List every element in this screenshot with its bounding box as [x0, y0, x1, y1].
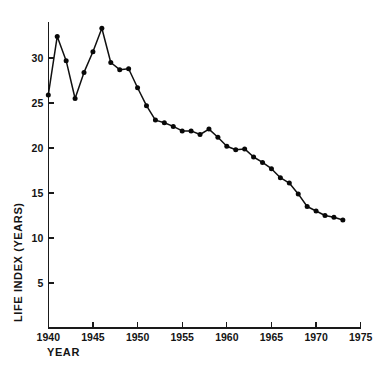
x-tick-label: 1955 [171, 331, 195, 343]
data-point [55, 34, 60, 39]
y-tick-label: 30 [32, 52, 44, 64]
y-tick-label: 25 [32, 97, 44, 109]
data-point [206, 127, 211, 132]
data-point [198, 132, 203, 137]
data-point [126, 66, 131, 71]
x-tick-label: 1970 [304, 331, 328, 343]
y-tick-label: 20 [32, 142, 44, 154]
data-point [117, 67, 122, 72]
data-point [180, 128, 185, 133]
data-point [269, 166, 274, 171]
data-point [331, 215, 336, 220]
data-point [242, 146, 247, 151]
data-point [278, 175, 283, 180]
data-point [314, 209, 319, 214]
y-tick-label: 10 [32, 232, 44, 244]
x-tick-label: 1975 [349, 331, 373, 343]
data-point [340, 218, 345, 223]
data-point [108, 60, 113, 65]
x-tick-label: 1960 [215, 331, 239, 343]
data-point [305, 204, 310, 209]
y-axis-ticks: 51015202530 [32, 52, 55, 289]
x-axis-title: YEAR [47, 346, 80, 358]
data-point [189, 128, 194, 133]
data-point [296, 191, 301, 196]
y-axis-title: LIFE INDEX (YEARS) [12, 202, 24, 322]
data-point [251, 155, 256, 160]
data-point [144, 103, 149, 108]
data-point [162, 120, 167, 125]
x-tick-label: 1965 [260, 331, 284, 343]
data-point [224, 144, 229, 149]
data-series [46, 26, 346, 223]
x-tick-label: 1950 [126, 331, 150, 343]
x-tick-label: 1945 [81, 331, 105, 343]
y-tick-label: 5 [37, 277, 43, 289]
data-point [153, 118, 158, 123]
data-point [46, 92, 51, 97]
data-point [73, 96, 78, 101]
line-chart: 51015202530 1940194519501955196019651970… [0, 0, 389, 374]
data-point [99, 26, 104, 31]
x-tick-label: 1940 [37, 331, 61, 343]
data-point [323, 213, 328, 218]
data-point [215, 135, 220, 140]
data-point [260, 160, 265, 165]
chart-figure: 51015202530 1940194519501955196019651970… [0, 0, 389, 374]
data-point [135, 85, 140, 90]
data-point [233, 147, 238, 152]
y-tick-label: 15 [32, 187, 44, 199]
data-point [287, 181, 292, 186]
series-line-life-index [48, 28, 343, 220]
data-point [171, 124, 176, 129]
data-point [64, 58, 69, 63]
data-point [82, 70, 87, 75]
x-axis-ticks: 19401945195019551960196519701975 [37, 322, 373, 343]
axes [48, 22, 360, 328]
data-point [90, 49, 95, 54]
